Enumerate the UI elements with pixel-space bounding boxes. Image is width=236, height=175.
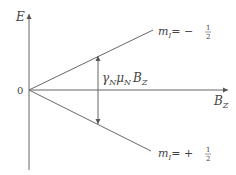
origin-label: 0 [17,85,23,96]
upper-line-label: mI= − 1 2 [158,24,211,41]
svg-text:1: 1 [206,146,210,154]
splitting-label: γNμNBZ [102,71,148,87]
svg-text:mI= +: mI= + [158,147,193,162]
energy-diagram: E 0 BZ γNμNBZ mI= − 1 2 mI= + 1 2 [0,0,236,175]
svg-text:2: 2 [206,33,210,41]
energy-axis-label: E [15,10,25,24]
lower-line-label: mI= + 1 2 [158,146,211,163]
lower-energy-line [29,90,151,151]
svg-text:mI= −: mI= − [158,25,193,40]
svg-text:2: 2 [206,155,210,163]
svg-text:1: 1 [206,24,210,32]
field-axis-label: BZ [213,94,229,110]
